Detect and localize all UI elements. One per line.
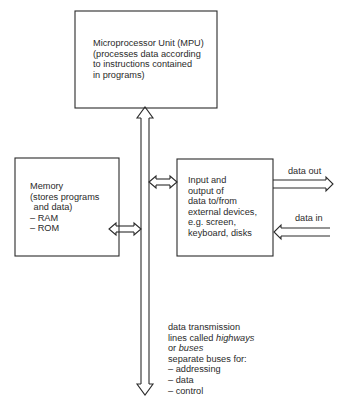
- memory-ram-item: – RAM: [30, 213, 99, 224]
- mpu-label-line: Microprocessor Unit (MPU): [93, 38, 204, 49]
- memory-label: Memory (stores programs and data) – RAM …: [30, 181, 99, 234]
- io-label-line: output of: [188, 186, 257, 197]
- bus-note-line: lines called highways: [168, 333, 254, 344]
- bus-note-text: lines called: [168, 333, 216, 343]
- mpu-label-line: (processes data according: [93, 49, 204, 60]
- io-label-line: Input and: [188, 175, 257, 186]
- data-out-arrow: [273, 177, 333, 191]
- memory-rom-item: – ROM: [30, 223, 99, 234]
- bus-note-text: or: [168, 343, 179, 353]
- io-label-line: e.g. screen,: [188, 217, 257, 228]
- bus-type-data: – data: [168, 375, 254, 386]
- mpu-label: Microprocessor Unit (MPU) (processes dat…: [93, 38, 204, 80]
- memory-label-line: and data): [30, 202, 99, 213]
- bus-note-line: or buses: [168, 343, 254, 354]
- io-label-line: keyboard, disks: [188, 228, 257, 239]
- memory-bus-arrow: [109, 223, 141, 235]
- mpu-label-line: to instructions contained: [93, 59, 204, 70]
- buses-term: buses: [179, 343, 204, 353]
- memory-label-line: Memory: [30, 181, 99, 192]
- bus-note: data transmission lines called highways …: [168, 322, 254, 396]
- io-label-line: data to/from: [188, 196, 257, 207]
- io-label: Input and output of data to/from externa…: [188, 175, 257, 239]
- data-in-arrow: [274, 225, 330, 239]
- system-bus-arrow: [137, 107, 153, 395]
- bus-type-addressing: – addressing: [168, 364, 254, 375]
- io-bus-arrow: [149, 176, 177, 188]
- bus-type-control: – control: [168, 386, 254, 397]
- io-label-line: external devices,: [188, 207, 257, 218]
- bus-note-line: separate buses for:: [168, 354, 254, 365]
- highways-term: highways: [216, 333, 254, 343]
- memory-label-line: (stores programs: [30, 192, 99, 203]
- data-out-label: data out: [288, 166, 321, 177]
- mpu-label-line: in programs): [93, 70, 204, 81]
- data-in-label: data in: [295, 213, 323, 224]
- bus-note-line: data transmission: [168, 322, 254, 333]
